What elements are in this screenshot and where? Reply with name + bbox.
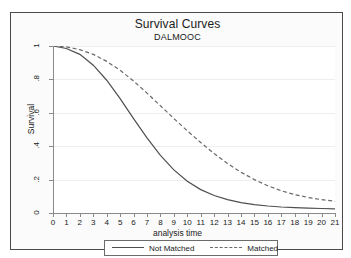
y-axis-tick xyxy=(49,113,53,114)
curve-matched xyxy=(53,46,335,201)
figure-frame: Survival Curves DALMOOC 0.2.4.6.81 Survi… xyxy=(10,12,343,250)
y-axis-tick-label: .2 xyxy=(32,170,41,188)
x-axis-tick xyxy=(241,213,242,217)
x-axis-tick xyxy=(295,213,296,217)
x-axis-tick xyxy=(66,213,67,217)
page-title: Survival Curves xyxy=(11,17,344,31)
x-axis-line xyxy=(53,213,335,214)
legend-label-not-matched: Not Matched xyxy=(149,244,194,253)
legend-swatch-dashed-line-icon xyxy=(210,244,242,252)
survival-curves xyxy=(53,46,335,213)
x-axis-tick xyxy=(107,213,108,217)
x-axis-tick xyxy=(174,213,175,217)
x-axis-tick xyxy=(93,213,94,217)
legend-item-not-matched: Not Matched xyxy=(112,244,194,253)
x-axis-tick xyxy=(214,213,215,217)
legend-label-matched: Matched xyxy=(247,244,278,253)
x-axis-title: analysis time xyxy=(11,228,344,238)
y-axis-tick xyxy=(49,79,53,80)
x-axis-tick xyxy=(187,213,188,217)
x-axis-tick xyxy=(147,213,148,217)
y-axis-tick xyxy=(49,146,53,147)
x-axis-tick xyxy=(281,213,282,217)
x-axis-tick xyxy=(335,213,336,217)
x-axis-tick xyxy=(53,213,54,217)
x-axis-tick xyxy=(201,213,202,217)
x-axis-tick xyxy=(322,213,323,217)
x-axis-tick xyxy=(308,213,309,217)
y-axis-tick-label: 0 xyxy=(32,204,41,222)
y-axis-tick xyxy=(49,46,53,47)
y-axis-tick-label: 1 xyxy=(32,37,41,55)
x-axis-tick-label: 21 xyxy=(327,218,343,227)
x-axis-tick xyxy=(228,213,229,217)
plot-area xyxy=(53,46,335,213)
chart-legend: Not Matched Matched xyxy=(104,240,278,256)
curve-not-matched xyxy=(53,46,335,209)
y-axis-line xyxy=(53,46,54,213)
x-axis-tick xyxy=(120,213,121,217)
legend-swatch-solid-line-icon xyxy=(112,244,144,252)
chart-subtitle: DALMOOC xyxy=(11,32,344,42)
y-axis-tick xyxy=(49,180,53,181)
x-axis-tick xyxy=(134,213,135,217)
legend-item-matched: Matched xyxy=(210,244,278,253)
y-axis-title: Survival xyxy=(26,89,36,149)
x-axis-tick xyxy=(160,213,161,217)
x-axis-tick xyxy=(254,213,255,217)
y-axis-tick-label: .8 xyxy=(32,70,41,88)
x-axis-tick xyxy=(268,213,269,217)
x-axis-tick xyxy=(80,213,81,217)
